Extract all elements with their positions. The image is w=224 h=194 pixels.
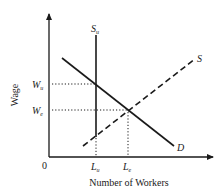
union-supply-label: Su [91,23,99,35]
wage-label-wu: Wu [32,79,43,91]
wage-label-we: We [32,105,43,117]
supply-label: S [197,53,202,64]
x-axis-title: Number of Workers [89,177,169,188]
origin-label: 0 [42,160,47,171]
demand-label: D [176,142,185,153]
demand-curve [62,58,174,146]
labor-label-le: Le [122,161,132,173]
labor-market-diagram: Su S D Wu We Lu Le 0 Number of Workers W… [0,0,224,194]
supply-curve [83,59,195,146]
y-axis-title: Wage [9,83,20,106]
labor-label-lu: Lu [90,161,100,173]
